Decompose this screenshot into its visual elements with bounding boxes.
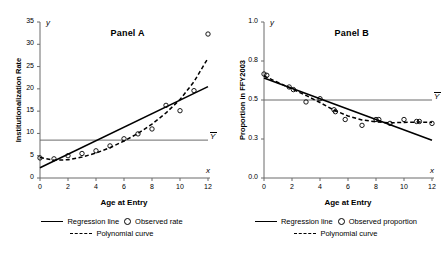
panel-a-mean-label: Y — [210, 132, 217, 141]
panel-b-ylabel: Proportion in FFY2003 — [238, 60, 247, 140]
panel-a-ytick-3: 15 — [26, 106, 34, 113]
panel-a-legend-observed-rate: Observed rate — [124, 217, 183, 226]
panel-a: Panel A Age at Entry Institutionalizatio… — [0, 0, 224, 255]
panel-a-legend-regression-line: Regression line — [41, 217, 119, 226]
panel-a-legend-label-0: Regression line — [67, 217, 119, 226]
panel-b-xtick-2: 4 — [310, 183, 330, 190]
panel-a-xtick-5: 10 — [170, 183, 190, 190]
panel-a-ytick-4: 20 — [26, 84, 34, 91]
panel-a-xtick-6: 12 — [198, 183, 218, 190]
panel-b-xtick-5: 10 — [394, 183, 414, 190]
panel-b-legend-polynomial-curve: Polynomial curve — [294, 229, 377, 238]
panel-a-xtick-4: 8 — [142, 183, 162, 190]
panel-a-legend: Regression line Observed rate Polynomial… — [0, 215, 224, 239]
panel-b-ytick-1: 0.3 — [248, 134, 258, 141]
panel-a-xlabel: Age at Entry — [100, 198, 147, 207]
panel-a-ytick-1: 5 — [30, 151, 34, 158]
panel-a-ylabel: Institutionalization Rate — [14, 58, 23, 143]
panel-b-xtick-6: 12 — [422, 183, 442, 190]
panel-a-x-symbol: x — [206, 166, 210, 175]
panel-b-legend-row-1: Regression line Observed proportion — [224, 215, 448, 227]
panel-b-mean-letter: Y — [434, 92, 439, 101]
panel-b-legend-row-2: Polynomial curve — [224, 227, 448, 239]
panel-a-legend-label-1: Observed rate — [135, 217, 183, 226]
solid-line-icon — [255, 221, 277, 222]
two-panel-figure: Panel A Age at Entry Institutionalizatio… — [0, 0, 448, 255]
panel-b-xtick-1: 2 — [282, 183, 302, 190]
panel-a-ytick-0: 0 — [30, 173, 34, 180]
panel-a-xtick-2: 4 — [86, 183, 106, 190]
panel-b-xlabel: Age at Entry — [324, 198, 371, 207]
panel-a-legend-row-2: Polynomial curve — [0, 227, 224, 239]
panel-a-ytick-2: 10 — [26, 128, 34, 135]
panel-b: Panel B Age at Entry Proportion in FFY20… — [224, 0, 448, 255]
panel-b-xtick-0: 0 — [254, 183, 274, 190]
panel-a-legend-polynomial-curve: Polynomial curve — [70, 229, 153, 238]
panel-b-legend-label-1: Observed proportion — [349, 217, 417, 226]
panel-a-ytick-5: 25 — [26, 62, 34, 69]
panel-b-legend: Regression line Observed proportion Poly… — [224, 215, 448, 239]
circle-marker-icon — [124, 218, 131, 225]
panel-b-title: Panel B — [335, 28, 369, 38]
circle-marker-icon — [338, 218, 345, 225]
panel-a-xtick-3: 6 — [114, 183, 134, 190]
panel-a-legend-label-2: Polynomial curve — [96, 229, 153, 238]
panel-b-legend-observed-proportion: Observed proportion — [338, 217, 417, 226]
panel-a-ytick-6: 30 — [26, 39, 34, 46]
panel-a-xtick-0: 0 — [30, 183, 50, 190]
panel-b-legend-label-0: Regression line — [281, 217, 333, 226]
panel-b-legend-label-2: Polynomial curve — [320, 229, 377, 238]
panel-a-y-symbol: y — [46, 18, 50, 27]
dashed-line-icon — [294, 233, 316, 234]
panel-b-ytick-4: 1.0 — [248, 17, 258, 24]
panel-a-ytick-7: 35 — [26, 17, 34, 24]
panel-b-xtick-3: 6 — [338, 183, 358, 190]
panel-b-ytick-3: 0.8 — [248, 56, 258, 63]
panel-a-legend-row-1: Regression line Observed rate — [0, 215, 224, 227]
solid-line-icon — [41, 221, 63, 222]
panel-a-title: Panel A — [111, 28, 145, 38]
panel-b-xtick-4: 8 — [366, 183, 386, 190]
panel-a-mean-letter: Y — [210, 132, 215, 141]
panel-b-ytick-2: 0.5 — [248, 95, 258, 102]
panel-b-y-symbol: y — [270, 18, 274, 27]
panel-b-legend-regression-line: Regression line — [255, 217, 333, 226]
panel-b-mean-label: Y — [434, 92, 441, 101]
panel-b-ytick-0: 0.0 — [248, 173, 258, 180]
panel-b-x-symbol: x — [430, 166, 434, 175]
panel-a-xtick-1: 2 — [58, 183, 78, 190]
dashed-line-icon — [70, 233, 92, 234]
